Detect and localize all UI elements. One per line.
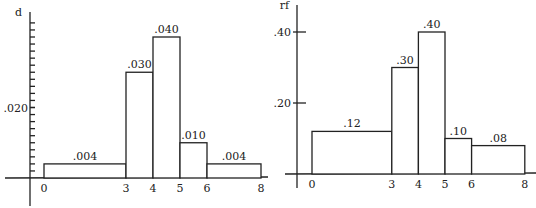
density-histogram: d.020.004.030.040.010.004034568: [4, 6, 269, 206]
histogram-bar: [392, 68, 419, 175]
histograms-figure: d.020.004.030.040.010.004034568 rf.20.40…: [0, 0, 536, 208]
histogram-bar: [44, 164, 126, 178]
bar-value-label: .010: [181, 129, 206, 142]
bar-value-label: .40: [423, 18, 441, 31]
bar-value-label: .030: [127, 58, 152, 71]
y-tick-label: .20: [274, 97, 292, 110]
x-tick-label: 4: [415, 178, 422, 191]
x-tick-label: 5: [442, 178, 449, 191]
y-tick-label: .40: [274, 26, 292, 39]
bar-value-label: .004: [73, 150, 98, 163]
y-tick-label: .020: [4, 102, 29, 115]
x-tick-label: 3: [388, 178, 395, 191]
y-axis-label: d: [15, 6, 22, 19]
y-axis-label: rf: [280, 0, 290, 12]
x-tick-label: 5: [177, 182, 184, 195]
relative-frequency-histogram: rf.20.40.12.30.40.10.08034568: [274, 0, 536, 191]
x-tick-label: 8: [521, 178, 528, 191]
bar-value-label: .12: [343, 117, 361, 130]
bar-value-label: .004: [222, 150, 247, 163]
x-tick-label: 0: [41, 182, 48, 195]
histogram-bar: [445, 139, 472, 175]
bar-value-label: .040: [154, 23, 179, 36]
histogram-bar: [418, 32, 445, 174]
x-tick-label: 0: [309, 178, 316, 191]
bar-value-label: .30: [396, 54, 414, 67]
histogram-bar: [126, 72, 153, 178]
x-tick-label: 8: [258, 182, 265, 195]
bar-value-label: .10: [450, 125, 468, 138]
bar-value-label: .08: [489, 132, 507, 145]
histogram-bar: [153, 37, 180, 178]
histogram-bar: [312, 131, 392, 174]
x-tick-label: 3: [123, 182, 130, 195]
histogram-bar: [180, 143, 207, 178]
x-tick-label: 6: [204, 182, 211, 195]
x-tick-label: 4: [150, 182, 157, 195]
histogram-bar: [472, 146, 525, 174]
histogram-bar: [207, 164, 261, 178]
x-tick-label: 6: [468, 178, 475, 191]
